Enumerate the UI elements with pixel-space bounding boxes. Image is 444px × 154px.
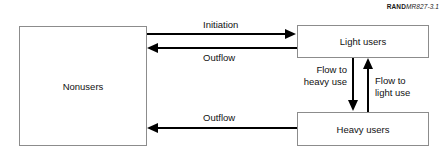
node-light-users-label: Light users xyxy=(340,36,386,47)
initiation-arrow-shaft xyxy=(147,33,286,35)
edge-label-outflow-heavy: Outflow xyxy=(203,112,235,123)
figure-id: RANDMR827-3.1 xyxy=(387,3,439,10)
node-light-users: Light users xyxy=(297,25,429,58)
edge-label-flow-to-heavy-line2: heavy use xyxy=(292,76,347,88)
flow-to-light-arrow-head xyxy=(363,58,373,69)
outflow-heavy-arrow-head xyxy=(147,123,158,133)
node-heavy-users: Heavy users xyxy=(297,112,429,146)
diagram-canvas: RANDMR827-3.1 Nonusers Light users Heavy… xyxy=(0,0,444,154)
flow-to-light-arrow-shaft xyxy=(367,69,369,112)
outflow-heavy-arrow-shaft xyxy=(158,127,297,129)
edge-label-outflow-light: Outflow xyxy=(203,52,235,63)
initiation-arrow-head xyxy=(285,29,296,39)
node-nonusers: Nonusers xyxy=(19,26,147,146)
figure-id-number: MR827-3.1 xyxy=(406,3,439,10)
edge-label-flow-to-heavy: Flow to heavy use xyxy=(292,64,347,87)
figure-id-brand: RAND xyxy=(387,3,406,10)
flow-to-heavy-arrow-head xyxy=(348,100,358,111)
outflow-light-arrow-head xyxy=(147,43,158,53)
edge-label-flow-to-light-line2: light use xyxy=(375,87,435,99)
flow-to-heavy-arrow-shaft xyxy=(352,58,354,102)
outflow-light-arrow-shaft xyxy=(158,47,297,49)
node-heavy-users-label: Heavy users xyxy=(337,124,390,135)
edge-label-initiation: Initiation xyxy=(203,19,238,30)
edge-label-flow-to-light-line1: Flow to xyxy=(375,75,435,87)
node-nonusers-label: Nonusers xyxy=(63,81,104,92)
edge-label-flow-to-light: Flow to light use xyxy=(375,75,435,98)
edge-label-flow-to-heavy-line1: Flow to xyxy=(292,64,347,76)
